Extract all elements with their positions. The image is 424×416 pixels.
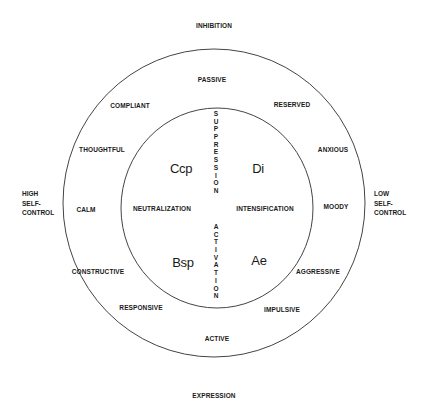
- axis-right-line-1: LOW: [374, 189, 406, 199]
- label-calm: CALM: [76, 207, 95, 214]
- label-moody: MOODY: [323, 204, 348, 211]
- vertical-letter: I: [215, 277, 217, 285]
- quadrant-ae: Ae: [251, 253, 266, 268]
- label-neutralization: NEUTRALIZATION: [133, 206, 191, 213]
- vertical-letter: T: [214, 269, 218, 277]
- vertical-letter: V: [214, 254, 218, 262]
- axis-bottom-label: EXPRESSION: [192, 393, 235, 400]
- outer-circle: [63, 49, 365, 357]
- vertical-letter: T: [214, 238, 218, 246]
- axis-left-line-1: HIGH: [22, 189, 54, 199]
- label-intensification: INTENSIFICATION: [236, 206, 293, 213]
- axis-right-label: LOW SELF- CONTROL: [374, 189, 406, 218]
- vertical-letter: R: [214, 141, 219, 149]
- axis-right-line-3: CONTROL: [374, 208, 406, 218]
- label-impulsive: IMPULSIVE: [264, 307, 300, 314]
- vertical-letter: P: [214, 125, 218, 133]
- vertical-letter: N: [214, 187, 219, 195]
- axis-left-line-2: SELF-: [22, 199, 54, 209]
- label-thoughtful: THOUGHTFUL: [79, 147, 125, 154]
- diagram-rings: [0, 0, 424, 416]
- vertical-letter: S: [214, 110, 218, 118]
- vertical-letter: N: [214, 292, 219, 300]
- vertical-letter: E: [214, 148, 218, 156]
- vertical-letter: I: [215, 172, 217, 180]
- quadrant-bsp: Bsp: [172, 255, 194, 270]
- label-constructive: CONSTRUCTIVE: [72, 269, 124, 276]
- vertical-letter: S: [214, 164, 218, 172]
- label-active: ACTIVE: [205, 336, 229, 343]
- axis-left-label: HIGH SELF- CONTROL: [22, 189, 54, 218]
- quadrant-di: Di: [252, 161, 264, 176]
- vertical-letter: A: [214, 223, 219, 231]
- axis-right-line-2: SELF-: [374, 199, 406, 209]
- vertical-letter: A: [214, 261, 219, 269]
- label-compliant: COMPLIANT: [110, 103, 150, 110]
- label-anxious: ANXIOUS: [318, 147, 348, 154]
- label-responsive: RESPONSIVE: [119, 305, 162, 312]
- vertical-letter: O: [213, 285, 218, 293]
- axis-left-line-3: CONTROL: [22, 208, 54, 218]
- vertical-label-activation: ACTIVATION: [213, 223, 218, 300]
- vertical-letter: S: [214, 156, 218, 164]
- vertical-letter: I: [215, 246, 217, 254]
- vertical-letter: C: [214, 231, 219, 239]
- label-passive: PASSIVE: [198, 77, 226, 84]
- quadrant-ccp: Ccp: [170, 161, 192, 176]
- vertical-letter: U: [214, 118, 219, 126]
- vertical-letter: O: [213, 179, 218, 187]
- vertical-letter: P: [214, 133, 218, 141]
- vertical-label-suppression: SUPPRESSION: [213, 110, 218, 195]
- label-aggressive: AGGRESSIVE: [296, 269, 340, 276]
- axis-top-label: INHIBITION: [196, 23, 232, 30]
- label-reserved: RESERVED: [274, 102, 310, 109]
